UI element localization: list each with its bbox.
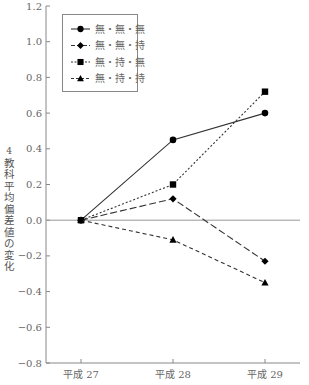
- y-axis-label-char: 4: [2, 146, 16, 158]
- circle-marker-icon: [262, 110, 269, 117]
- y-axis-label: 4教科平均偏差値の変化: [2, 146, 16, 273]
- legend-label: 無・無・持: [95, 39, 145, 51]
- y-axis-label-char: 科: [2, 169, 16, 181]
- y-tick-label: −0.8: [18, 358, 42, 369]
- y-tick-label: 0.8: [26, 72, 42, 83]
- legend-label: 無・持・無: [95, 56, 145, 68]
- square-marker-icon: [170, 181, 176, 187]
- y-tick-label: −0.2: [18, 250, 42, 261]
- circle-marker-icon: [170, 137, 177, 144]
- x-tick-label: 平成 28: [155, 369, 191, 380]
- series-line: [81, 113, 265, 220]
- triangle-marker-icon: [261, 279, 268, 286]
- y-tick-label: 1.0: [26, 36, 42, 47]
- series-line: [81, 199, 265, 261]
- y-tick-label: −0.6: [18, 322, 42, 333]
- y-tick-label: 0.6: [26, 108, 42, 119]
- y-axis-label-char: 差: [2, 215, 16, 227]
- legend-label: 無・無・無: [95, 23, 145, 35]
- circle-marker-icon: [77, 26, 83, 32]
- y-tick-label: 0.0: [26, 215, 42, 226]
- series-group: [77, 88, 268, 285]
- y-tick-label: −0.4: [18, 286, 42, 297]
- series-2: [77, 195, 268, 265]
- diamond-marker-icon: [261, 258, 268, 265]
- series-4: [77, 216, 268, 285]
- square-marker-icon: [77, 59, 83, 65]
- line-chart: −0.8−0.6−0.4−0.20.00.20.40.60.81.01.2平成 …: [0, 0, 309, 385]
- square-marker-icon: [262, 88, 268, 94]
- y-axis-label-char: 均: [2, 192, 16, 204]
- y-tick-label: 0.2: [26, 179, 42, 190]
- series-3: [78, 88, 268, 223]
- series-line: [81, 220, 265, 282]
- x-tick-label: 平成 29: [247, 369, 283, 380]
- legend: 無・無・無無・無・持無・持・無無・持・持: [63, 15, 146, 92]
- y-tick-label: 0.4: [26, 143, 42, 154]
- y-axis-label-char: の: [2, 238, 16, 250]
- axes: −0.8−0.6−0.4−0.20.00.20.40.60.81.01.2平成 …: [18, 1, 300, 381]
- legend-label: 無・持・持: [95, 72, 145, 84]
- x-tick-label: 平成 27: [63, 369, 99, 380]
- y-axis-label-char: 化: [2, 261, 16, 273]
- diamond-marker-icon: [169, 195, 176, 202]
- series-1: [78, 110, 269, 224]
- y-tick-label: 1.2: [26, 1, 42, 12]
